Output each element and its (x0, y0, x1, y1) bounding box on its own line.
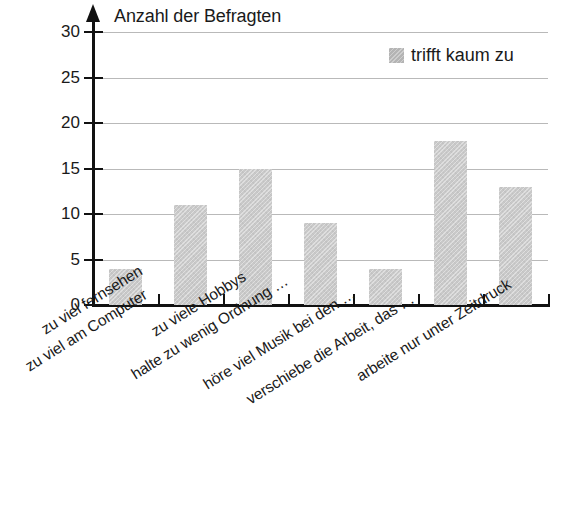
y-axis-tick-label: 0 (50, 295, 80, 315)
bar (434, 141, 467, 305)
chart-legend: trifft kaum zu (389, 45, 514, 66)
plot-area (93, 25, 548, 305)
chart-axis-title: Anzahl der Befragten (114, 6, 281, 27)
bar (369, 269, 402, 305)
y-axis-tick-label: 30 (50, 22, 80, 42)
bar-chart: Anzahl der Befragten 051015202530 trifft… (0, 0, 562, 512)
legend-swatch-icon (389, 48, 404, 63)
legend-item-label: trifft kaum zu (411, 45, 514, 66)
y-axis-tick-label: 5 (50, 250, 80, 270)
x-axis-tick (548, 294, 550, 307)
y-axis-tick-label: 10 (50, 204, 80, 224)
bar (499, 187, 532, 305)
y-axis-tick-label: 20 (50, 113, 80, 133)
bar (304, 223, 337, 305)
y-axis-tick-label: 25 (50, 68, 80, 88)
x-axis-category-label: verschiebe die Arbeit, das … (243, 290, 417, 408)
bar (109, 269, 142, 305)
bar (174, 205, 207, 305)
y-axis-tick-label: 15 (50, 159, 80, 179)
bar (239, 169, 272, 306)
